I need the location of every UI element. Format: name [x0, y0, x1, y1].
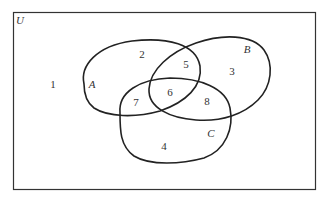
region-4-label: 4	[161, 141, 167, 152]
region-3-label: 3	[229, 66, 235, 77]
region-5-label: 5	[183, 59, 189, 70]
region-7-label: 7	[133, 97, 139, 108]
set-b-label: B	[244, 44, 251, 55]
venn-diagram	[0, 0, 325, 199]
set-c-label: C	[207, 128, 214, 139]
set-a-label: A	[89, 79, 96, 90]
universe-label: U	[16, 15, 24, 26]
region-6-label: 6	[167, 87, 173, 98]
region-8-label: 8	[204, 96, 210, 107]
region-1-label: 1	[50, 79, 56, 90]
region-2-label: 2	[139, 49, 145, 60]
